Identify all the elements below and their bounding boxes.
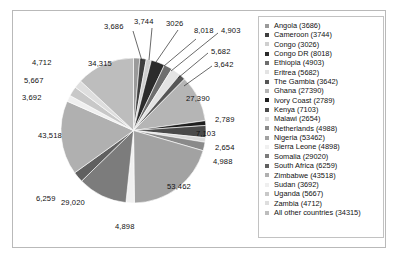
legend-item[interactable]: South Africa (6259) [265, 161, 380, 170]
legend-item-label: Ivory Coast (2789) [274, 96, 335, 105]
legend-item[interactable]: Ethiopia (4903) [265, 58, 380, 67]
slice-label-zimbabwe: 43,518 [38, 131, 62, 140]
legend-item-label: Eritrea (5682) [274, 68, 319, 77]
slice-label-zambia: 4,712 [32, 58, 52, 67]
slice-label-ivory-coast: 2,789 [215, 115, 235, 124]
slice-label-nigeria: 53,462 [167, 182, 191, 191]
legend-item[interactable]: Nigeria (53462) [265, 133, 380, 142]
legend-item-label: Zimbabwe (43518) [274, 171, 336, 180]
slice-label-ghana: 27,390 [186, 94, 210, 103]
slice-label-kenya: 7,103 [196, 129, 216, 138]
slice-label-eritrea: 5,682 [211, 47, 231, 56]
legend-item-label: All other countries (34315) [274, 208, 361, 217]
legend-item-label: Congo (3026) [274, 40, 319, 49]
legend-item[interactable]: Zimbabwe (43518) [265, 171, 380, 180]
slice-label-cameroon: 3,744 [134, 17, 154, 26]
legend-item[interactable]: Somalia (29020) [265, 152, 380, 161]
legend-item[interactable]: Uganda (5667) [265, 189, 380, 198]
slice-label-somalia: 29,020 [61, 198, 85, 207]
legend-item-label: Zambia (4712) [274, 199, 322, 208]
slice-label-the-gambia: 3,642 [214, 60, 234, 69]
legend-item[interactable]: Cameroon (3744) [265, 30, 380, 39]
legend-color-swatch [265, 52, 269, 56]
legend-item[interactable]: Angola (3686) [265, 21, 380, 30]
legend-item[interactable]: Congo DR (8018) [265, 49, 380, 58]
legend-item-label: Malawi (2654) [274, 114, 320, 123]
slice-label-ethiopia: 4,903 [221, 26, 241, 35]
legend-item-label: South Africa (6259) [274, 161, 337, 170]
legend-color-swatch [265, 80, 269, 84]
legend-item-label: Cameroon (3744) [274, 30, 332, 39]
legend-item[interactable]: Ivory Coast (2789) [265, 96, 380, 105]
slice-label-netherlands: 4,988 [213, 157, 233, 166]
legend-color-swatch [265, 108, 269, 112]
legend-item[interactable]: Malawi (2654) [265, 114, 380, 123]
legend-item[interactable]: Eritrea (5682) [265, 68, 380, 77]
slice-label-sudan: 3,692 [22, 93, 42, 102]
legend-item[interactable]: Sierra Leone (4898) [265, 142, 380, 151]
legend-color-swatch [265, 42, 269, 46]
legend-item[interactable]: The Gambia (3642) [265, 77, 380, 86]
slice-label-all-other: 34,315 [88, 59, 112, 68]
legend-item[interactable]: Zambia (4712) [265, 199, 380, 208]
legend-item-label: Congo DR (8018) [274, 49, 332, 58]
slice-label-malawi: 2,654 [215, 143, 235, 152]
legend-color-swatch [265, 173, 269, 177]
legend-item-label: The Gambia (3642) [274, 77, 338, 86]
legend-item-label: Somalia (29020) [274, 152, 328, 161]
legend-color-swatch [265, 70, 269, 74]
legend-item-label: Sudan (3692) [274, 180, 319, 189]
legend-color-swatch [265, 154, 269, 158]
legend-color-swatch [265, 126, 269, 130]
legend-item[interactable]: Congo (3026) [265, 40, 380, 49]
legend-color-swatch [265, 201, 269, 205]
legend-item[interactable]: All other countries (34315) [265, 208, 380, 217]
legend-color-swatch [265, 61, 269, 65]
legend-color-swatch [265, 117, 269, 121]
slice-label-angola: 3,686 [104, 22, 124, 31]
slice-label-uganda: 5,667 [24, 76, 44, 85]
legend-item[interactable]: Sudan (3692) [265, 180, 380, 189]
legend-color-swatch [265, 136, 269, 140]
legend-item-label: Nigeria (53462) [274, 133, 325, 142]
legend-color-swatch [265, 24, 269, 28]
legend-color-swatch [265, 98, 269, 102]
legend-color-swatch [265, 89, 269, 93]
legend-color-swatch [265, 145, 269, 149]
legend-item-label: Uganda (5667) [274, 189, 323, 198]
legend-item-label: Angola (3686) [274, 21, 320, 30]
legend-item[interactable]: Ghana (27390) [265, 86, 380, 95]
slice-label-congo-dr: 8,018 [194, 26, 214, 35]
slice-label-south-africa: 6,259 [36, 194, 56, 203]
legend-item-label: Sierra Leone (4898) [274, 142, 340, 151]
legend-color-swatch [265, 192, 269, 196]
slice-label-sierra-leone: 4,898 [115, 222, 135, 231]
pie-chart-figure: 3,686 3,744 3026 8,018 4,903 5,682 3,642… [0, 0, 398, 258]
legend-item-label: Kenya (7103) [274, 105, 318, 114]
legend-color-swatch [265, 211, 269, 215]
legend-item-label: Ethiopia (4903) [274, 58, 324, 67]
legend-item-label: Netherlands (4988) [274, 124, 337, 133]
legend-color-swatch [265, 183, 269, 187]
legend-item[interactable]: Netherlands (4988) [265, 124, 380, 133]
legend-item-label: Ghana (27390) [274, 86, 324, 95]
legend-item[interactable]: Kenya (7103) [265, 105, 380, 114]
slice-label-congo: 3026 [166, 19, 183, 28]
chart-legend: Angola (3686)Cameroon (3744)Congo (3026)… [258, 16, 384, 238]
legend-color-swatch [265, 164, 269, 168]
legend-color-swatch [265, 33, 269, 37]
